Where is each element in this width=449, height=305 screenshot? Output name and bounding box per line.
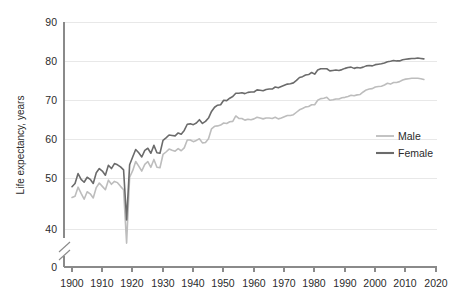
legend-label-male: Male <box>398 130 421 142</box>
x-tick-1970: 1970 <box>272 277 296 289</box>
x-tick-1940: 1940 <box>181 277 205 289</box>
y-tick-40: 40 <box>45 223 57 235</box>
legend-label-female: Female <box>398 147 433 159</box>
x-tickmarks <box>72 267 436 272</box>
x-tick-2010: 2010 <box>393 277 417 289</box>
y-tick-60: 60 <box>45 133 57 145</box>
y-tick-labels: 90 80 70 60 50 40 0 <box>45 16 57 273</box>
x-tick-1990: 1990 <box>333 277 357 289</box>
x-tick-labels: 1900 1910 1920 1930 1940 1950 1960 1970 … <box>60 277 448 289</box>
y-tick-90: 90 <box>45 16 57 28</box>
chart-svg: 90 80 70 60 50 40 0 1900 1910 1920 1930 … <box>0 0 449 305</box>
x-tick-1960: 1960 <box>242 277 266 289</box>
legend: Male Female <box>376 130 433 159</box>
y-tick-0: 0 <box>51 261 57 273</box>
x-tick-2020: 2020 <box>424 277 448 289</box>
x-tick-1980: 1980 <box>302 277 326 289</box>
x-tick-2000: 2000 <box>363 277 387 289</box>
x-tick-1910: 1910 <box>90 277 114 289</box>
y-axis-title: Life expectancy, years <box>15 96 26 195</box>
x-tick-1900: 1900 <box>60 277 84 289</box>
x-tick-1930: 1930 <box>151 277 175 289</box>
x-tick-1920: 1920 <box>120 277 144 289</box>
life-expectancy-chart: 90 80 70 60 50 40 0 1900 1910 1920 1930 … <box>0 0 449 305</box>
x-tick-1950: 1950 <box>211 277 235 289</box>
y-tick-70: 70 <box>45 94 57 106</box>
axis-break-mark-upper <box>59 242 70 252</box>
y-tick-80: 80 <box>45 55 57 67</box>
y-tick-50: 50 <box>45 172 57 184</box>
series-line-male <box>72 78 424 243</box>
gridlines <box>64 22 437 229</box>
